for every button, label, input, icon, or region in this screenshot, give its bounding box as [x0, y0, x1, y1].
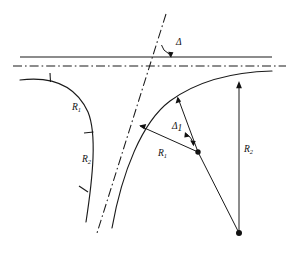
delta1-arrowhead-a [184, 132, 190, 138]
left-curve [20, 79, 93, 222]
delta1-label: Δ1 [171, 121, 182, 133]
line-diagram: Δ R1 R2 Δ1 R1 [0, 0, 290, 257]
left-curve-tick-lower [79, 186, 88, 192]
delta-angle-arc [162, 45, 169, 54]
left-curve-radius-r2-label: R2 [81, 154, 92, 165]
left-curve-tick-upper [50, 73, 51, 82]
right-outer-radius-r2-label: R2 [243, 144, 254, 155]
radius-r2-arrowhead-top [236, 81, 242, 88]
left-curve-radius-r1-label: R1 [71, 102, 81, 113]
delta-label: Δ [175, 37, 182, 47]
dashdot-diagonal-tangent-line [97, 14, 166, 233]
radius-r1-arrowhead-upper [176, 97, 182, 104]
center-to-bottom-leader [198, 152, 239, 233]
figure-container: Δ R1 R2 Δ1 R1 [0, 0, 290, 257]
bottom-vertex-point [236, 230, 242, 236]
right-inner-radius-r1-label: R1 [157, 148, 167, 159]
